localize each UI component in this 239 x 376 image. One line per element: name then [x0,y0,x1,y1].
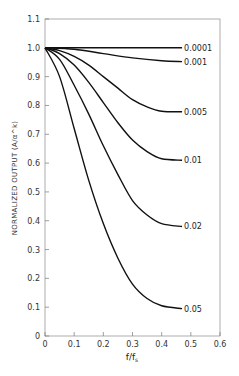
y-tick-label: 0.8 [27,101,40,110]
y-tick-label: 0.9 [27,73,40,82]
y-tick-label: 0.2 [27,274,40,283]
x-tick-label: 0.6 [214,340,227,349]
x-tick-label: 0.4 [155,340,168,349]
chart: 00.10.20.30.40.50.60.70.80.91.01.1 00.10… [0,0,239,376]
y-tick-label: 0.7 [27,130,40,139]
curve-label: 0.02 [184,222,202,231]
curve-label: 0.01 [184,156,202,165]
y-tick-label: 1.0 [27,44,40,53]
y-tick-label: 0.4 [27,217,40,226]
curve-0.001 [45,48,182,62]
curve-labels: 0.00010.0010.0050.010.020.05 [184,44,212,314]
x-axis-ticks: 00.10.20.30.40.50.6 [42,332,226,349]
curve-0.01 [45,48,182,160]
y-tick-label: 0.6 [27,159,40,168]
y-tick-label: 0.1 [27,303,40,312]
curve-label: 0.05 [184,305,202,314]
x-axis-label: f/fs [126,352,139,363]
x-tick-label: 0.1 [68,340,81,349]
x-label-sub: s [135,356,138,363]
y-tick-label: 1.1 [27,15,40,24]
x-tick-label: 0.5 [184,340,197,349]
y-tick-label: 0.3 [27,246,40,255]
x-tick-label: 0 [42,340,47,349]
curve-label: 0.001 [184,58,207,67]
curve-0.02 [45,48,182,227]
curve-label: 0.005 [184,108,207,117]
x-tick-label: 0.3 [126,340,139,349]
curves [45,48,182,309]
y-tick-label: 0 [35,332,40,341]
y-tick-label: 0.5 [27,188,40,197]
y-axis-ticks: 00.10.20.30.40.50.60.70.80.91.01.1 [27,15,49,341]
y-axis-label: NORMALIZED OUTPUT (A/α^k) [11,121,19,236]
x-tick-label: 0.2 [97,340,110,349]
curve-label: 0.0001 [184,44,212,53]
curve-0.05 [45,48,182,309]
